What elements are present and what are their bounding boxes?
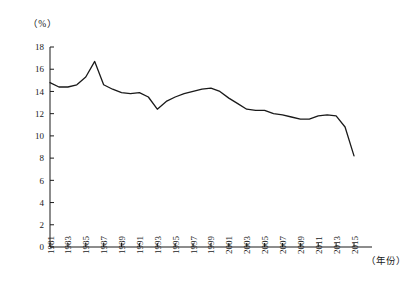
x-axis-tick-label: 1999 — [206, 236, 216, 255]
y-axis-tick-label: 18 — [35, 42, 45, 52]
x-axis-tick-label: 2001 — [224, 236, 234, 254]
y-axis-tick-label: 16 — [35, 64, 45, 74]
y-axis-ticks: 024681012141618 — [35, 42, 54, 252]
x-axis-tick-label: 2011 — [314, 236, 324, 254]
x-axis-tick-label: 1991 — [135, 236, 145, 254]
y-axis-tick-label: 6 — [40, 176, 45, 186]
x-axis-title: （年份） — [366, 253, 406, 267]
data-series-line — [50, 61, 354, 155]
x-axis-tick-label: 1983 — [63, 236, 73, 255]
y-axis-tick-label: 8 — [40, 153, 45, 163]
y-axis-tick-label: 14 — [35, 87, 45, 97]
x-axis-tick-label: 1997 — [189, 236, 199, 255]
x-axis-tick-label: 1995 — [171, 236, 181, 255]
x-axis-tick-label: 2013 — [332, 236, 342, 255]
axes — [50, 47, 372, 247]
y-axis-tick-label: 4 — [40, 198, 45, 208]
y-axis-tick-label: 12 — [35, 109, 44, 119]
x-axis-ticks: 1981198319851987198919911993199519971999… — [46, 236, 360, 255]
y-axis-tick-label: 0 — [40, 242, 45, 252]
x-axis-tick-label: 2003 — [242, 236, 252, 254]
x-axis-tick-label: 2009 — [296, 236, 306, 255]
x-axis-tick-label: 2005 — [260, 236, 270, 255]
x-axis-tick-label: 1989 — [117, 236, 127, 255]
x-axis-tick-label: 1985 — [81, 236, 91, 255]
y-axis-tick-label: 10 — [35, 131, 45, 141]
x-axis-tick-label: 2007 — [278, 236, 288, 255]
chart-figure: （%） 024681012141618 19811983198519871989… — [0, 0, 410, 293]
x-axis-tick-label: 1987 — [99, 236, 109, 255]
line-chart-plot: 024681012141618 198119831985198719891991… — [0, 0, 410, 293]
x-axis-tick-label: 1981 — [46, 236, 56, 254]
x-axis-tick-label: 2015 — [350, 236, 360, 255]
y-axis-tick-label: 2 — [40, 220, 45, 230]
x-axis-tick-label: 1993 — [153, 236, 163, 255]
